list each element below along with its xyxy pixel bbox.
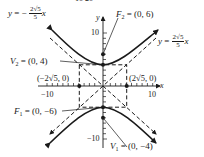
right-point-label: (2√5, 0) xyxy=(129,73,156,83)
focus-f1-label: F1 = (0, −6) xyxy=(14,106,57,119)
vertex-v2-label: V2 = (0, 4) xyxy=(10,56,48,69)
vertex-v1-label: V1 = (0, −4) xyxy=(110,141,153,154)
asymptote-neg-label: yy = − = − 2√55x xyxy=(8,6,46,21)
y-tick-neg10: −10 xyxy=(87,135,100,143)
left-point-label: (−2√5, 0) xyxy=(37,73,69,83)
hyperbola-diagram xyxy=(0,0,204,157)
focus-f2-label: F2 = (0, 6) xyxy=(116,9,154,22)
asymptote-pos-label: y = 2√55x xyxy=(158,34,188,49)
x-axis xyxy=(38,83,160,86)
x-tick-neg10: −10 xyxy=(41,91,54,99)
leader-lines xyxy=(60,18,127,147)
y-axis-label: y xyxy=(96,14,100,22)
y-tick-10: 10 xyxy=(91,29,99,37)
point-pos-b xyxy=(125,84,129,88)
x-axis-label: x xyxy=(160,82,164,90)
point-neg-b xyxy=(77,84,81,88)
x-tick-10: 10 xyxy=(148,91,156,99)
top-fragment: 10 20 xyxy=(75,0,93,4)
